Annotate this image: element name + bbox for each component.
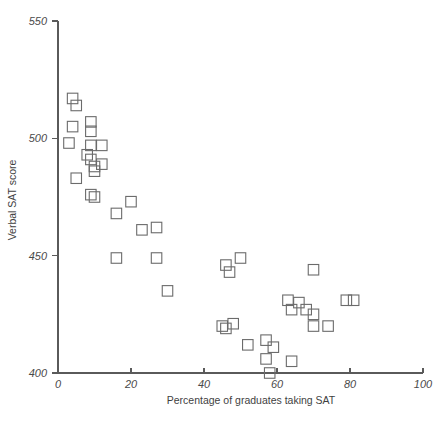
y-tick-label: 550 — [29, 15, 48, 27]
data-point-marker — [67, 121, 78, 132]
data-point-marker — [243, 340, 254, 351]
data-point-marker — [89, 166, 100, 177]
data-point-marker — [89, 161, 100, 172]
x-tick-label: 60 — [271, 378, 284, 390]
data-point-marker — [86, 154, 97, 165]
x-tick-label: 40 — [198, 378, 211, 390]
y-tick-label: 400 — [29, 367, 48, 379]
data-point-marker — [64, 138, 74, 149]
data-point-marker — [221, 260, 232, 271]
data-point-marker — [126, 196, 137, 207]
data-point-marker — [137, 225, 148, 236]
data-point-marker — [97, 159, 108, 170]
data-point-marker — [71, 100, 82, 111]
data-point-marker — [97, 140, 108, 151]
data-point-marker — [228, 318, 239, 329]
x-tick-label: 0 — [55, 378, 62, 390]
data-point-marker — [261, 335, 272, 346]
data-point-marker — [348, 295, 359, 306]
x-axis-title: Percentage of graduates taking SAT — [167, 394, 336, 406]
data-point-marker — [151, 222, 162, 233]
data-point-marker — [294, 297, 305, 308]
axes — [58, 21, 423, 373]
data-point-marker — [301, 304, 312, 315]
data-point-marker — [308, 309, 319, 320]
data-point-marker — [89, 192, 100, 203]
data-points — [64, 93, 359, 378]
plot-canvas: 020406080100400450500550 Percentage of g… — [0, 0, 444, 421]
data-point-marker — [261, 354, 272, 365]
data-point-marker — [286, 356, 297, 367]
data-point-marker — [235, 253, 246, 264]
data-point-marker — [323, 321, 334, 332]
x-tick-label: 100 — [414, 378, 433, 390]
data-point-marker — [308, 265, 319, 276]
data-point-marker — [71, 173, 82, 184]
data-point-marker — [111, 253, 122, 264]
data-point-marker — [217, 321, 228, 332]
x-tick-label: 20 — [124, 378, 138, 390]
data-point-marker — [86, 189, 97, 200]
scatter-plot-figure: 020406080100400450500550 Percentage of g… — [0, 0, 444, 421]
data-point-marker — [224, 267, 235, 278]
data-point-marker — [111, 208, 122, 219]
y-tick-label: 500 — [29, 132, 48, 144]
data-point-marker — [151, 253, 162, 264]
data-point-marker — [308, 321, 319, 332]
y-tick-label: 450 — [29, 250, 48, 262]
data-point-marker — [341, 295, 352, 306]
x-tick-label: 80 — [344, 378, 357, 390]
tick-marks — [52, 21, 423, 373]
data-point-marker — [67, 93, 78, 104]
data-point-marker — [268, 342, 279, 353]
y-axis-title: Verbal SAT score — [6, 159, 18, 240]
data-point-marker — [162, 286, 173, 297]
data-point-marker — [221, 323, 232, 334]
